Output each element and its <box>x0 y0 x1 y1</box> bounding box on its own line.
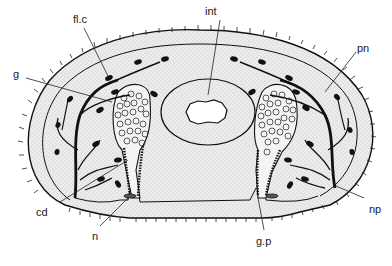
label-protonephridium: pn <box>357 43 369 54</box>
label-intestine: int <box>205 6 217 17</box>
cross-section-diagram <box>0 0 392 266</box>
label-nephridiopore: np <box>369 204 381 215</box>
label-gonad: g <box>13 69 19 80</box>
nephridiopore-right <box>266 194 278 198</box>
label-collecting-duct: cd <box>36 207 48 218</box>
label-genital-pore: g.p <box>256 236 271 247</box>
label-nerve: n <box>92 231 98 242</box>
intestine <box>161 79 255 145</box>
nephridiopore-left <box>124 194 136 198</box>
label-flame-cell: fl.c <box>73 14 87 25</box>
